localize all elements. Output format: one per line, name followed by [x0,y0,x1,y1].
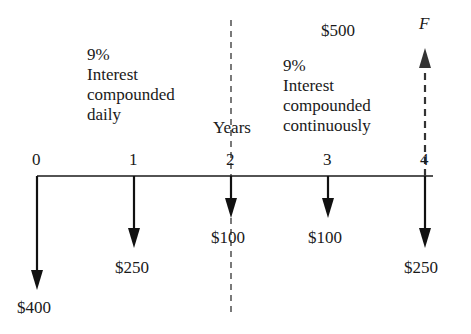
cash-flow-label-year-4: $250 [404,258,438,278]
period-1-interest-note: 9% Interest compounded daily [87,45,175,125]
period-2-line3: compounded [283,96,371,116]
cash-flow-label-year-2: $100 [211,228,245,248]
cash-flow-diagram-canvas [0,0,471,334]
arrowhead-up-icon [419,48,431,68]
top-amount-label: $500 [321,21,355,41]
period-1-line4: daily [87,105,175,125]
arrowhead-down-icon [225,198,237,218]
period-1-rate: 9% [87,45,175,65]
cash-flow-arrow-year-3 [322,176,334,218]
cash-flow-arrow-year-1 [128,176,140,248]
tick-label-year-1: 1 [129,150,138,170]
period-1-line2: Interest [87,65,175,85]
cash-flow-label-year-0: $400 [17,298,51,318]
cash-flow-label-year-1: $250 [115,258,149,278]
tick-label-year-3: 3 [323,150,332,170]
period-2-line2: Interest [283,76,371,96]
cash-flow-arrow-year-2 [225,176,237,218]
arrowhead-down-icon [31,270,43,290]
arrowhead-down-icon [322,198,334,218]
period-2-rate: 9% [283,56,371,76]
period-2-interest-note: 9% Interest compounded continuously [283,56,371,136]
tick-label-year-4: 4 [420,150,429,170]
axis-label-years: Years [213,118,251,138]
cash-flow-arrow-year-4 [419,176,431,248]
arrowhead-down-icon [128,228,140,248]
cash-flow-label-year-3: $100 [308,228,342,248]
future-value-label: F [419,14,429,34]
tick-label-year-2: 2 [226,150,235,170]
period-1-line3: compounded [87,85,175,105]
tick-label-year-0: 0 [32,150,41,170]
period-2-line4: continuously [283,116,371,136]
arrowhead-down-icon [419,228,431,248]
cash-flow-arrow-year-0 [31,176,43,290]
